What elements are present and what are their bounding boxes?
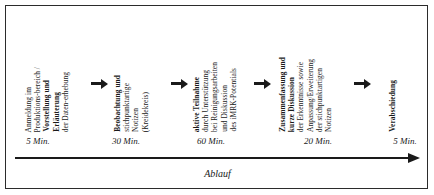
step-text-line: und Diskussion: [220, 85, 229, 132]
arrow-head: [264, 79, 271, 89]
timeline-arrow-head: [408, 153, 420, 163]
step-text-line: Verabschiedung: [388, 80, 397, 132]
step-text-line: Anpassung/Erweiterung: [306, 59, 315, 132]
step-verabschiedung: Verabschiedung: [388, 6, 397, 132]
step-beobachtung: Beobachtung undstichpunktartigeNotizen(K…: [113, 6, 150, 132]
duration-label: 5 Min.: [26, 134, 50, 148]
process-diagram-frame: Anmeldung imProduktions-bereich /Vorstel…: [5, 5, 428, 189]
arrow-head: [181, 79, 188, 89]
duration-label: 30 Min.: [112, 134, 140, 148]
timeline-axis-label: Ablauf: [6, 167, 429, 180]
step-text-line: (Kreidekreis): [141, 92, 150, 132]
step-text-line: der Daten-erhebung: [61, 72, 70, 132]
step-text-line: Zusammenfassung und: [278, 57, 287, 132]
step-text-line: des iMRK-Potentials: [229, 68, 238, 132]
timeline-arrow-shaft: [15, 157, 411, 159]
step-text-line: Beobachtung und: [113, 75, 122, 132]
step-text-line: Vorstellung und: [42, 80, 51, 132]
duration-label: 60 Min.: [197, 134, 225, 148]
process-timeline-arrow: [15, 153, 421, 164]
step-text-line: Anmeldung im: [24, 87, 33, 132]
step-text-line: der stichpunktartigen: [315, 68, 324, 132]
step-text-line: der Erkenntnisse sowie: [296, 62, 305, 132]
step-teilnahme: aktive Teilnahmedurch Unterstützungbei R…: [192, 6, 238, 132]
step-anmeldung: Anmeldung imProduktions-bereich /Vorstel…: [24, 6, 70, 132]
duration-label: 5 Min.: [393, 134, 417, 148]
step-text-line: Notizen: [131, 108, 140, 132]
connector-4-arrow-icon: [354, 77, 371, 90]
step-text-line: Erläuterung: [52, 92, 61, 132]
arrow-head: [364, 79, 371, 89]
duration-label: 20 Min.: [304, 134, 332, 148]
step-text-line: Notizen: [324, 108, 333, 132]
step-durations-row: 5 Min.30 Min.60 Min.20 Min.5 Min.: [6, 134, 429, 150]
connector-1-arrow-icon: [91, 77, 108, 90]
step-text-line: bei Reinigungsarbeiten: [210, 62, 219, 132]
step-text-line: aktive Teilnahme: [192, 77, 201, 132]
process-steps-row: Anmeldung imProduktions-bereich /Vorstel…: [6, 6, 429, 132]
connector-2-arrow-icon: [171, 77, 188, 90]
arrow-head: [101, 79, 108, 89]
connector-3-arrow-icon: [254, 77, 271, 90]
step-zusammenfassung: Zusammenfassung undkurze Diskussionder E…: [278, 6, 333, 132]
